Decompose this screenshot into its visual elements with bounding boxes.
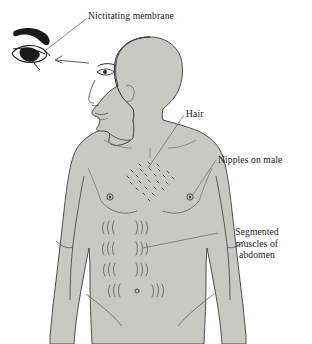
- anatomy-diagram: Nictitating membrane Hair Nipples on mal…: [0, 0, 312, 344]
- figure-illustration: [0, 0, 312, 344]
- nostril: [92, 105, 99, 106]
- inset-upper-lid: [13, 28, 50, 45]
- leader-nictitating-membrane: [46, 19, 86, 50]
- body-silhouette: [50, 37, 246, 344]
- eyebrow: [98, 64, 115, 66]
- label-hair: Hair: [186, 108, 203, 119]
- nose-line: [89, 80, 95, 103]
- label-segmented-line-3: abdomen: [220, 249, 294, 261]
- label-nipples-on-male: Nipples on male: [218, 154, 282, 165]
- torso-shape: [50, 37, 246, 344]
- label-segmented-muscles-of-abdomen: Segmented muscles of abdomen: [220, 226, 294, 261]
- eye-arrow: [55, 56, 89, 63]
- label-segmented-line-1: Segmented: [220, 226, 294, 238]
- arrow-head: [55, 56, 62, 63]
- eye-inset-illustration: [12, 28, 50, 70]
- label-nictitating-membrane: Nictitating membrane: [88, 10, 174, 21]
- label-segmented-line-2: muscles of: [220, 238, 294, 250]
- eye-pupil: [103, 70, 107, 74]
